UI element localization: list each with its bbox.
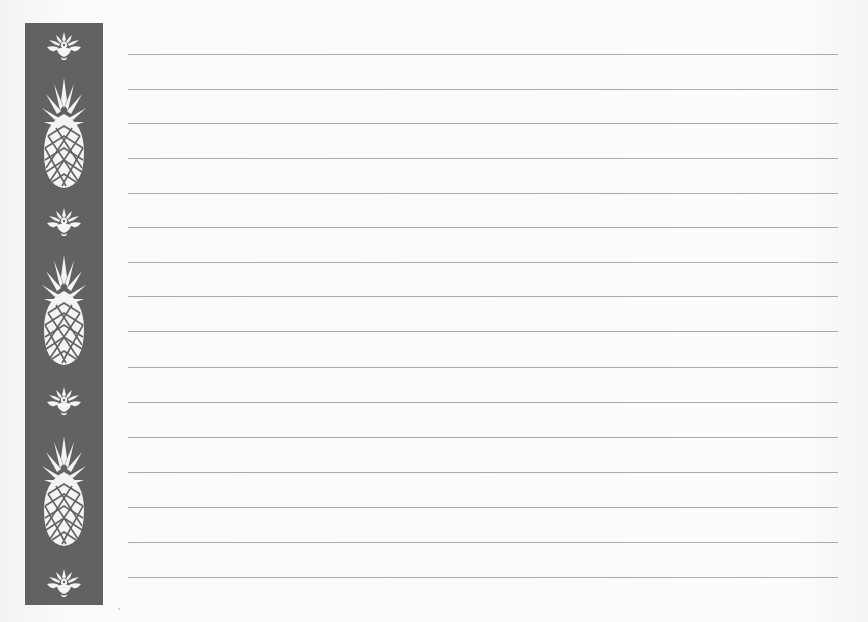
ruled-line bbox=[128, 296, 838, 297]
ruled-line bbox=[128, 367, 838, 368]
ruled-line bbox=[128, 472, 838, 473]
ruled-line bbox=[128, 507, 838, 508]
pineapple-border-sidebar bbox=[25, 23, 103, 605]
ruled-line bbox=[128, 54, 838, 55]
flourish-icon bbox=[25, 385, 103, 417]
ruled-writing-area[interactable] bbox=[128, 0, 838, 622]
ruled-line bbox=[128, 331, 838, 332]
pineapple-icon bbox=[25, 255, 103, 367]
ruled-line bbox=[128, 437, 838, 438]
stationery-page bbox=[0, 0, 868, 622]
ruled-line bbox=[128, 577, 838, 578]
ruled-line bbox=[128, 402, 838, 403]
ruled-line bbox=[128, 262, 838, 263]
paper-speck bbox=[118, 608, 120, 610]
ruled-line bbox=[128, 89, 838, 90]
ruled-line bbox=[128, 123, 838, 124]
flourish-icon bbox=[25, 567, 103, 599]
ruled-line bbox=[128, 227, 838, 228]
pineapple-icon bbox=[25, 436, 103, 548]
ruled-line bbox=[128, 158, 838, 159]
ruled-line bbox=[128, 542, 838, 543]
ruled-line bbox=[128, 193, 838, 194]
pineapple-icon bbox=[25, 78, 103, 190]
flourish-icon bbox=[25, 30, 103, 62]
flourish-icon bbox=[25, 206, 103, 238]
